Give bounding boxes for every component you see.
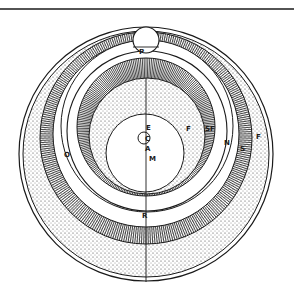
- label-SF: SF: [205, 125, 215, 133]
- label-S: S: [240, 145, 245, 153]
- inner-white-sphere: [106, 114, 184, 192]
- label-A: A: [145, 145, 151, 153]
- label-P: P: [139, 48, 144, 56]
- diagram-figure: P E C A M F SF N S F O R: [0, 0, 294, 307]
- label-O: O: [64, 151, 70, 159]
- label-C: C: [145, 135, 150, 143]
- label-R: R: [142, 212, 148, 220]
- label-E: E: [146, 124, 151, 132]
- label-F-outer: F: [256, 133, 261, 141]
- label-N: N: [224, 139, 230, 147]
- label-F-inner: F: [186, 125, 191, 133]
- label-M: M: [149, 155, 156, 163]
- epicycle-P: [133, 27, 159, 53]
- spheres-diagram: P E C A M F SF N S F O R: [0, 0, 294, 307]
